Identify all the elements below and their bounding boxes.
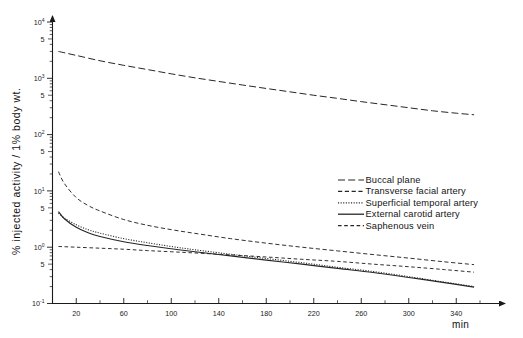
y-tick-label: 10-1: [32, 298, 45, 308]
x-tick-label: 60: [120, 309, 128, 318]
y-tick-label: 100: [34, 242, 45, 252]
x-axis-tick-labels: 2060100140180220260300340: [72, 309, 462, 318]
y-tick-exponent: 0: [42, 242, 45, 248]
x-tick-label: 340: [450, 309, 462, 318]
curve-buccal-plane: [58, 51, 474, 114]
x-tick-label: 140: [213, 309, 225, 318]
y-tick-exponent: 4: [42, 17, 45, 23]
x-tick-label: 220: [308, 309, 320, 318]
curve-saphenous-vein: [58, 246, 474, 272]
legend-label-transverse-facial-artery: Transverse facial artery: [366, 186, 467, 196]
y-tick-label: 5: [41, 147, 45, 156]
legend-label-saphenous-vein: Saphenous vein: [366, 221, 435, 231]
y-tick-label: 102: [34, 129, 45, 139]
y-tick-label: 101: [34, 186, 45, 196]
y-tick-label: 104: [34, 17, 45, 27]
data-curves: [58, 51, 474, 287]
x-axis-ticks: [76, 298, 480, 304]
y-tick-label: 5: [41, 35, 45, 44]
y-axis-title: % injected activity / 1% body wt.: [10, 87, 22, 255]
x-tick-label: 20: [72, 309, 80, 318]
x-tick-label: 260: [355, 309, 367, 318]
x-tick-label: 180: [260, 309, 272, 318]
y-axis-ticks: [47, 22, 53, 304]
y-tick-exponent: 1: [42, 186, 45, 192]
y-tick-label: 5: [41, 260, 45, 269]
y-tick-exponent: 3: [42, 73, 45, 79]
y-tick-label: 103: [34, 73, 45, 83]
semilog-decay-plot: 2060100140180220260300340 10451035102510…: [0, 0, 523, 338]
y-tick-exponent: -1: [40, 298, 45, 304]
chart-legend: Buccal planeTransverse facial arterySupe…: [338, 175, 478, 231]
chart-figure: 2060100140180220260300340 10451035102510…: [0, 0, 523, 338]
x-tick-label: 100: [165, 309, 177, 318]
y-axis-tick-labels: 1045103510251015100510-1: [32, 17, 45, 309]
y-tick-label: 5: [41, 204, 45, 213]
y-tick-label: 5: [41, 91, 45, 100]
legend-label-superficial-temporal-artery: Superficial temporal artery: [366, 198, 479, 208]
x-tick-label: 300: [403, 309, 415, 318]
legend-label-external-carotid-artery: External carotid artery: [366, 209, 461, 219]
x-axis-unit-label: min: [452, 319, 469, 330]
y-tick-exponent: 2: [42, 129, 45, 135]
legend-label-buccal-plane: Buccal plane: [366, 175, 421, 185]
